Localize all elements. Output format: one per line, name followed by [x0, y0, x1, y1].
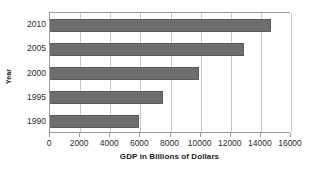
x-tick-label-8000: 8000	[160, 138, 179, 149]
x-tick-6000	[139, 133, 140, 137]
y-tick-label-2000: 2000	[16, 68, 46, 78]
y-tick-label-1990: 1990	[16, 116, 46, 126]
x-tick-16000	[290, 133, 291, 137]
x-tick-2000	[79, 133, 80, 137]
bar-2010[interactable]	[50, 19, 271, 32]
x-axis-title: GDP in Billions of Dollars	[49, 152, 290, 161]
x-tick-label-6000: 6000	[130, 138, 149, 149]
x-tick-label-12000: 12000	[218, 138, 242, 149]
y-tick-label-2010: 2010	[16, 19, 46, 29]
bar-band	[50, 61, 291, 85]
bar-2005[interactable]	[50, 43, 244, 56]
x-tick-label-14000: 14000	[248, 138, 272, 149]
bar-band	[50, 37, 291, 61]
x-tick-10000	[200, 133, 201, 137]
x-axis-tick-labels: 0200040006000800010000120001400016000	[49, 138, 290, 150]
x-tick-4000	[109, 133, 110, 137]
x-axis-ticks	[49, 133, 290, 137]
bar-band	[50, 86, 291, 110]
y-axis-title-text: Year	[5, 68, 12, 83]
bar-chart: Year 20102005200019951990 02000400060008…	[0, 0, 310, 170]
y-tick-label-2005: 2005	[16, 43, 46, 53]
x-tick-label-10000: 10000	[188, 138, 212, 149]
gridline	[291, 13, 292, 132]
x-tick-12000	[230, 133, 231, 137]
plot-area	[49, 12, 290, 133]
x-tick-label-0: 0	[47, 138, 52, 149]
x-tick-label-2000: 2000	[70, 138, 89, 149]
x-tick-label-4000: 4000	[100, 138, 119, 149]
x-tick-8000	[170, 133, 171, 137]
bar-band	[50, 110, 291, 134]
bar-band	[50, 13, 291, 37]
x-tick-0	[49, 133, 50, 137]
y-tick-label-1995: 1995	[16, 92, 46, 102]
bar-1995[interactable]	[50, 91, 163, 104]
bar-1990[interactable]	[50, 115, 139, 128]
y-axis-tick-labels: 20102005200019951990	[14, 12, 46, 133]
bar-2000[interactable]	[50, 67, 199, 80]
x-tick-14000	[260, 133, 261, 137]
x-tick-label-16000: 16000	[278, 138, 302, 149]
